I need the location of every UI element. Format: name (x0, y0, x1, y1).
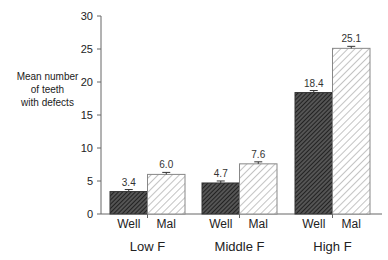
y-tick-label: 5 (87, 175, 93, 187)
value-label: 25.1 (342, 33, 362, 44)
bar-well (110, 192, 148, 214)
y-tick-label: 10 (81, 142, 93, 154)
group-label: Low F (130, 239, 165, 254)
value-label: 18.4 (304, 78, 324, 89)
category-label: Well (117, 217, 140, 231)
y-tick-label: 0 (87, 208, 93, 220)
value-label: 3.4 (122, 177, 136, 188)
bar-chart: 051015202530 3.4Well6.0MalLow F4.7Well7.… (0, 0, 388, 260)
category-label: Well (302, 217, 325, 231)
value-label: 4.7 (214, 168, 228, 179)
group-label: Middle F (215, 239, 265, 254)
category-label: Mal (157, 217, 176, 231)
y-tick-label: 20 (81, 76, 93, 88)
y-tick-label: 15 (81, 109, 93, 121)
group-label: High F (313, 239, 351, 254)
bar-mal (148, 174, 186, 214)
bar-mal (333, 48, 371, 214)
bar-well (202, 183, 240, 214)
bar-well (295, 93, 333, 214)
category-label: Mal (249, 217, 268, 231)
value-label: 7.6 (251, 149, 265, 160)
category-label: Mal (342, 217, 361, 231)
bar-mal (240, 164, 278, 214)
value-label: 6.0 (159, 159, 173, 170)
y-tick-label: 30 (81, 10, 93, 22)
y-tick-label: 25 (81, 43, 93, 55)
category-label: Well (209, 217, 232, 231)
